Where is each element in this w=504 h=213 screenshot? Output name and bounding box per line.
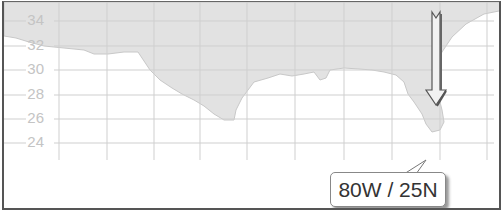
map-frame: 34 32 30 28 26 24 80W / 25N [2, 1, 501, 210]
y-axis-label: 26 [4, 109, 44, 126]
y-axis-label: 28 [4, 85, 44, 102]
y-axis-label: 34 [4, 11, 44, 28]
y-axis-label: 30 [4, 60, 44, 77]
y-axis-label: 32 [4, 36, 44, 53]
coordinate-callout: 80W / 25N [330, 172, 446, 207]
y-axis-label: 24 [4, 133, 44, 150]
